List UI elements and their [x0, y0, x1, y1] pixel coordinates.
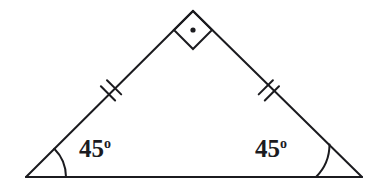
degree-symbol-bottom-right: o [280, 136, 287, 151]
angle-label-bottom-left: 45o [79, 136, 111, 161]
triangle-drawing [0, 0, 380, 196]
angle-arc-bottom-right [316, 145, 330, 178]
angle-value-bottom-left: 45 [79, 135, 104, 162]
geometry-figure: 45o 45o [0, 0, 380, 196]
triangle-outline [26, 11, 362, 177]
right-angle-dot-icon [190, 27, 195, 32]
tick-marks-left-leg [101, 80, 121, 100]
tick-mark [101, 86, 115, 100]
angle-label-bottom-right: 45o [255, 136, 287, 161]
tick-marks-right-leg [259, 80, 279, 100]
angle-arc-bottom-left [54, 149, 66, 177]
degree-symbol-bottom-left: o [104, 136, 111, 151]
angle-value-bottom-right: 45 [255, 135, 280, 162]
right-angle-marker [174, 11, 212, 49]
tick-mark [107, 80, 121, 94]
